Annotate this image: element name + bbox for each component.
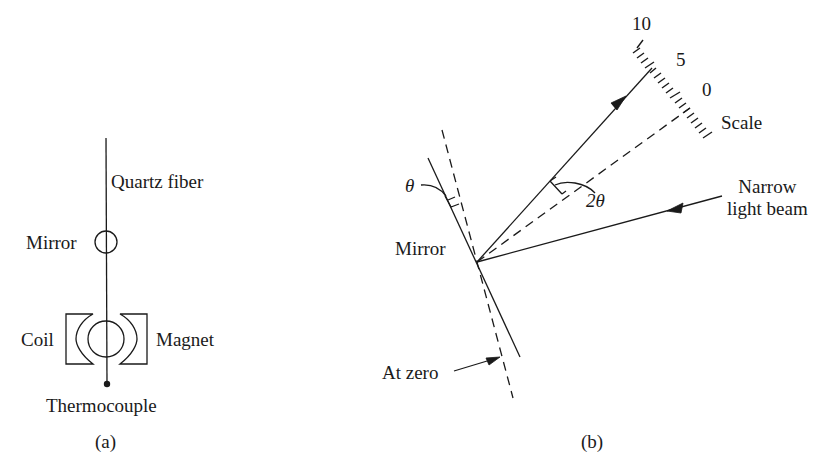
mirror-at-zero-dashed-line xyxy=(442,130,513,398)
scale-tick-0: 0 xyxy=(702,80,712,99)
scale-tick-5: 5 xyxy=(676,50,686,69)
two-theta-bracket xyxy=(550,177,566,194)
two-theta-label: 2θ xyxy=(586,191,605,210)
thermocouple-label: Thermocouple xyxy=(46,396,157,415)
coil-circle xyxy=(88,321,124,357)
quartz-fiber-line xyxy=(106,138,107,384)
narrow-light-beam-label: Narrow light beam xyxy=(727,176,808,220)
mirror-label-b: Mirror xyxy=(395,239,446,258)
at-zero-label: At zero xyxy=(382,363,438,382)
incident-beam-arrow-icon xyxy=(667,203,683,213)
theta-leader xyxy=(421,185,446,196)
mirror-label-a: Mirror xyxy=(26,233,77,252)
magnet-label: Magnet xyxy=(156,330,214,349)
magnet-left-pole xyxy=(66,314,93,364)
scale-label: Scale xyxy=(721,113,762,132)
panel-a-caption: (a) xyxy=(95,432,116,451)
narrow-light-beam-line2: light beam xyxy=(727,198,808,220)
galvanometer-figure: Quartz fiber Mirror Coil Magnet Thermoco… xyxy=(0,0,835,470)
theta-label: θ xyxy=(405,176,414,195)
narrow-light-beam-line1: Narrow xyxy=(727,176,808,198)
scale-tick-10: 10 xyxy=(632,14,651,33)
scale-ticks xyxy=(633,40,712,138)
at-zero-arrow-icon xyxy=(486,357,500,365)
coil-label: Coil xyxy=(21,330,54,349)
thermocouple-dot xyxy=(104,381,110,387)
panel-b-caption: (b) xyxy=(581,432,603,451)
panel-b-drawing xyxy=(421,68,722,398)
theta-angle-marker xyxy=(448,197,455,200)
quartz-fiber-label: Quartz fiber xyxy=(111,172,203,191)
reflected-beam-arrow-icon-head xyxy=(611,96,626,110)
